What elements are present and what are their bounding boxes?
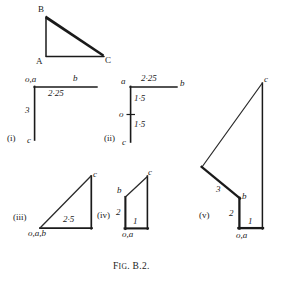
figure-caption-smallcaps: IG xyxy=(119,262,128,271)
diagram-ii-node-o: o xyxy=(119,110,124,119)
diagram-v-length-3: 3 xyxy=(216,185,221,194)
mechanism-triangle xyxy=(45,16,104,58)
diagram-ii-node-c: c xyxy=(122,138,126,147)
diagram-v-length-1: 1 xyxy=(248,217,253,226)
diagram-v-node-oa: o,a xyxy=(236,231,247,240)
diagram-v-node-b: b xyxy=(242,192,247,201)
diagram-v-line-hyp xyxy=(202,84,262,168)
diagram-i-length-oc: 3 xyxy=(25,106,30,115)
diagram-iii-node-c: c xyxy=(93,170,97,179)
diagram-i-length-ab: 2·25 xyxy=(48,89,64,98)
diagram-iii-tag: (iii) xyxy=(13,213,27,222)
diagram-ii-length-ao: 1·5 xyxy=(134,94,145,103)
diagram-v-length-2: 2 xyxy=(229,209,234,218)
diagram-ii-length-ab: 2·25 xyxy=(141,74,157,83)
diagram-iv-node-b: b xyxy=(117,186,122,195)
diagram-ii-node-a: a xyxy=(121,77,126,86)
diagram-v-tag: (v) xyxy=(199,211,210,220)
diagram-iv-length-left: 2 xyxy=(116,208,121,217)
mechanism-label-c: C xyxy=(105,56,111,65)
diagram-iv-tag: (iv) xyxy=(97,211,110,220)
figure-caption-rest: . B.2. xyxy=(127,261,149,271)
mechanism-label-a: A xyxy=(36,57,43,66)
diagram-i-node-b: b xyxy=(73,74,78,83)
diagram-iv-line-bc xyxy=(125,177,147,198)
diagram-i-node-oa: o,a xyxy=(25,75,36,84)
diagram-iv-node-oa: o,a xyxy=(122,230,133,239)
diagram-ii-tag: (ii) xyxy=(104,134,115,143)
mechanism-label-b: B xyxy=(38,5,44,14)
diagram-i-vector xyxy=(34,86,97,140)
figure-b2: B A C o,a b 2·25 3 c (i) a b 2·25 1·5 o … xyxy=(0,0,281,286)
diagram-i-node-c: c xyxy=(27,136,31,145)
link-bc xyxy=(45,16,104,58)
diagram-iv-length-bottom: 1 xyxy=(133,217,138,226)
figure-vector-layer xyxy=(0,0,281,286)
figure-caption: FIG. B.2. xyxy=(113,261,150,271)
diagram-ii-length-oc: 1·5 xyxy=(134,120,145,129)
diagram-iii-length-hyp: 2·5 xyxy=(63,215,74,224)
diagram-v-node-c: c xyxy=(264,75,268,84)
diagram-i-tag: (i) xyxy=(7,134,16,143)
diagram-ii-node-b: b xyxy=(180,79,185,88)
diagram-iii-node-oab: o,a,b xyxy=(28,229,46,238)
diagram-iv-node-c: c xyxy=(148,168,152,177)
